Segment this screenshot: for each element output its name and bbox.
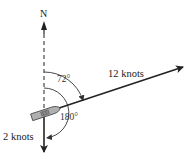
angle-72-label: 72°: [57, 75, 70, 85]
boat-icon: [31, 105, 62, 121]
north-label: N: [40, 9, 47, 19]
ship-speed-label: 12 knots: [108, 69, 144, 80]
angle-180-label: 180°: [60, 113, 78, 123]
current-speed-label: 2 knots: [3, 132, 34, 143]
north-arrow-icon: [41, 21, 47, 34]
